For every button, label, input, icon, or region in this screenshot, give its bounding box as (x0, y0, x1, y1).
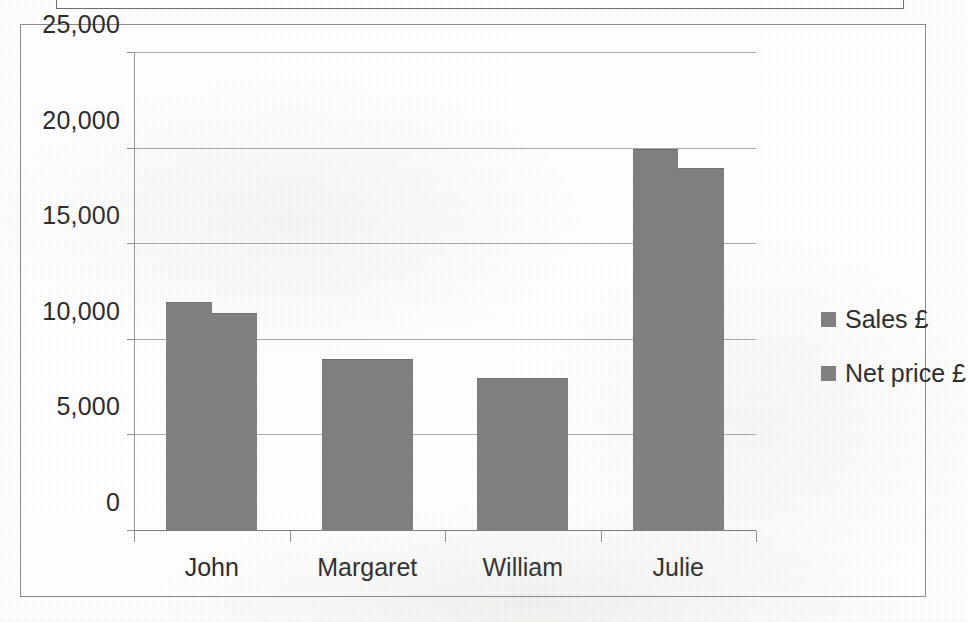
bar-group[interactable] (477, 53, 568, 531)
y-axis-line (134, 53, 135, 531)
y-axis-tick-label: 20,000 (42, 105, 120, 134)
x-axis-tick-label: John (185, 553, 239, 582)
bar[interactable] (678, 168, 723, 531)
y-axis-tick-mark (127, 243, 135, 244)
bar[interactable] (166, 302, 211, 531)
y-axis-tick-label: 0 (106, 488, 120, 517)
y-axis-tick-mark (127, 148, 135, 149)
legend-item-label: Net price £ (845, 359, 966, 388)
bar[interactable] (212, 313, 257, 531)
x-axis-tick-label: Julie (653, 553, 704, 582)
x-axis-tick-label: William (482, 553, 563, 582)
bar[interactable] (322, 359, 367, 531)
x-axis-tick-mark (756, 531, 757, 542)
y-axis-tick-mark (127, 339, 135, 340)
bar-group[interactable] (633, 53, 724, 531)
x-axis-tick-mark (601, 531, 602, 542)
plot-area: 05,00010,00015,00020,00025,000 JohnMarga… (134, 53, 756, 531)
bar[interactable] (367, 359, 412, 531)
chart-frame: 05,00010,00015,00020,00025,000 JohnMarga… (20, 24, 926, 597)
y-axis-tick-label: 10,000 (42, 296, 120, 325)
legend-swatch-icon (821, 312, 836, 327)
bar[interactable] (633, 149, 678, 531)
y-axis-tick-label: 5,000 (56, 392, 120, 421)
y-axis-tick-mark (127, 434, 135, 435)
bar[interactable] (523, 378, 568, 531)
bar-group[interactable] (166, 53, 257, 531)
x-axis-tick-mark (134, 531, 135, 542)
y-axis-tick-label: 25,000 (42, 10, 120, 39)
x-axis-tick-label: Margaret (317, 553, 417, 582)
bar[interactable] (477, 378, 522, 531)
legend-item[interactable]: Sales £ (821, 305, 966, 334)
x-axis-tick-mark (445, 531, 446, 542)
bar-group[interactable] (322, 53, 413, 531)
y-axis-tick-mark (127, 52, 135, 53)
y-axis-tick-label: 15,000 (42, 201, 120, 230)
x-axis-tick-mark (290, 531, 291, 542)
page-bleed-box-above (56, 0, 904, 9)
legend-swatch-icon (821, 366, 836, 381)
legend-item-label: Sales £ (845, 305, 928, 334)
legend-item[interactable]: Net price £ (821, 359, 966, 388)
chart-legend: Sales £Net price £ (821, 305, 966, 413)
